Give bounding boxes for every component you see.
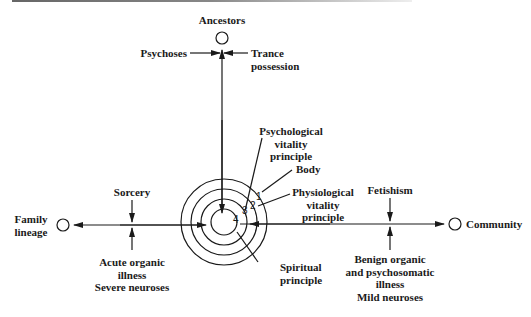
label-physiological-vitality: Physiological vitality principle bbox=[291, 186, 355, 224]
label-psychoses: Psychoses bbox=[140, 47, 187, 60]
leader-physiological bbox=[258, 194, 290, 206]
label-benign-line1: Benign organic bbox=[335, 253, 445, 266]
label-psych-line3: principle bbox=[256, 150, 326, 163]
label-benign-line4: Mild neuroses bbox=[335, 291, 445, 304]
ring-number-3: 3 bbox=[242, 206, 248, 216]
pole-label-family-line2: lineage bbox=[10, 226, 52, 239]
label-phys-line3: principle bbox=[291, 211, 355, 224]
label-acute-organic: Acute organic illness Severe neuroses bbox=[82, 256, 182, 294]
label-fetishism: Fetishism bbox=[360, 184, 420, 197]
label-trance-possession: Trance possession bbox=[251, 47, 299, 72]
label-phys-line2: vitality bbox=[291, 199, 355, 212]
label-acute-line2: illness bbox=[82, 269, 182, 282]
pole-label-family-line1: Family bbox=[10, 213, 52, 226]
label-trance-line2: possession bbox=[251, 60, 299, 73]
label-psychological-vitality: Psychological vitality principle bbox=[256, 125, 326, 163]
community-node bbox=[449, 218, 461, 230]
label-benign-organic: Benign organic and psychosomatic illness… bbox=[335, 253, 445, 303]
ring-number-1: 1 bbox=[256, 192, 262, 202]
ring-1 bbox=[181, 179, 267, 265]
pole-label-community: Community bbox=[466, 218, 522, 231]
label-benign-line2: and psychosomatic bbox=[335, 266, 445, 279]
pole-label-family-lineage: Family lineage bbox=[10, 213, 52, 238]
ancestors-node bbox=[216, 32, 228, 44]
label-spiritual-line2: principle bbox=[280, 274, 322, 287]
label-spiritual-principle: Spiritual principle bbox=[280, 261, 322, 286]
label-phys-line1: Physiological bbox=[291, 186, 355, 199]
label-benign-line3: illness bbox=[335, 278, 445, 291]
ring-number-4: 4 bbox=[233, 215, 239, 225]
label-spiritual-line1: Spiritual bbox=[280, 261, 322, 274]
leader-body bbox=[262, 170, 292, 192]
ring-number-2: 2 bbox=[250, 201, 256, 211]
label-body: Body bbox=[296, 163, 320, 176]
label-psych-line2: vitality bbox=[256, 138, 326, 151]
label-psych-line1: Psychological bbox=[256, 125, 326, 138]
pole-label-ancestors: Ancestors bbox=[192, 14, 252, 27]
family-node bbox=[57, 219, 69, 231]
label-trance-line1: Trance bbox=[251, 47, 299, 60]
label-sorcery: Sorcery bbox=[102, 186, 162, 199]
label-acute-line1: Acute organic bbox=[82, 256, 182, 269]
label-acute-line3: Severe neuroses bbox=[82, 281, 182, 294]
ring-3 bbox=[201, 199, 247, 245]
